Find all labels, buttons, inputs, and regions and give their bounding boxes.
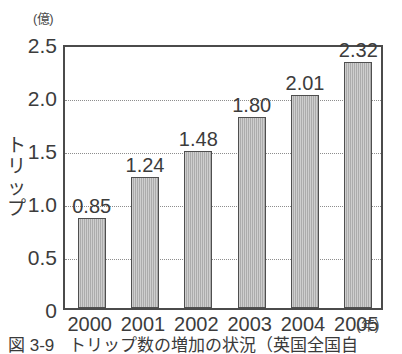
bar-slot-2000: 0.85: [65, 47, 118, 308]
plot-area: 0.851.241.481.802.012.32: [63, 45, 383, 310]
bar-value-label-2005: 2.32: [330, 40, 386, 60]
bar-2001[interactable]: [131, 177, 159, 308]
figure-caption: 図 3-9 トリップ数の増加の状況（英国全国自: [8, 336, 402, 354]
bar-slot-2002: 1.48: [172, 47, 225, 308]
bar-value-label-2003: 1.80: [224, 95, 280, 115]
y-axis-tick-labels: 00.51.01.52.02.5: [20, 45, 61, 310]
y-axis-tick-0: 0: [20, 300, 61, 321]
bar-2003[interactable]: [238, 117, 266, 308]
y-axis-tick-2.0: 2.0: [20, 88, 61, 109]
bar-2000[interactable]: [78, 218, 106, 308]
bar-2004[interactable]: [291, 95, 319, 308]
bar-value-label-2001: 1.24: [117, 155, 173, 175]
y-axis-tick-1.0: 1.0: [20, 194, 61, 215]
bar-value-label-2004: 2.01: [277, 73, 333, 93]
figure-container: (億) ト リ ッ プ 00.51.01.52.02.5 0.851.241.4…: [0, 0, 402, 354]
bar-slot-2004: 2.01: [278, 47, 331, 308]
bar-slot-2001: 1.24: [118, 47, 171, 308]
x-axis-tick-labels: 200020012002200320042005: [63, 312, 383, 338]
bar-slot-2003: 1.80: [225, 47, 278, 308]
bar-2005[interactable]: [344, 62, 372, 308]
figure-caption-text: トリップ数の増加の状況（英国全国自: [69, 336, 358, 354]
bar-2002[interactable]: [184, 151, 212, 308]
figure-caption-number: 図 3-9: [8, 336, 54, 354]
y-axis-tick-0.5: 0.5: [20, 247, 61, 268]
bar-value-label-2000: 0.85: [64, 196, 120, 216]
bar-value-label-2002: 1.48: [170, 129, 226, 149]
plot-inner: 0.851.241.481.802.012.32: [65, 47, 381, 308]
x-axis-unit-label: (年): [356, 314, 379, 336]
y-axis-unit-label: (億): [33, 12, 53, 26]
bar-slot-2005: 2.32: [332, 47, 385, 308]
y-axis-tick-1.5: 1.5: [20, 141, 61, 162]
y-axis-tick-2.5: 2.5: [20, 35, 61, 56]
